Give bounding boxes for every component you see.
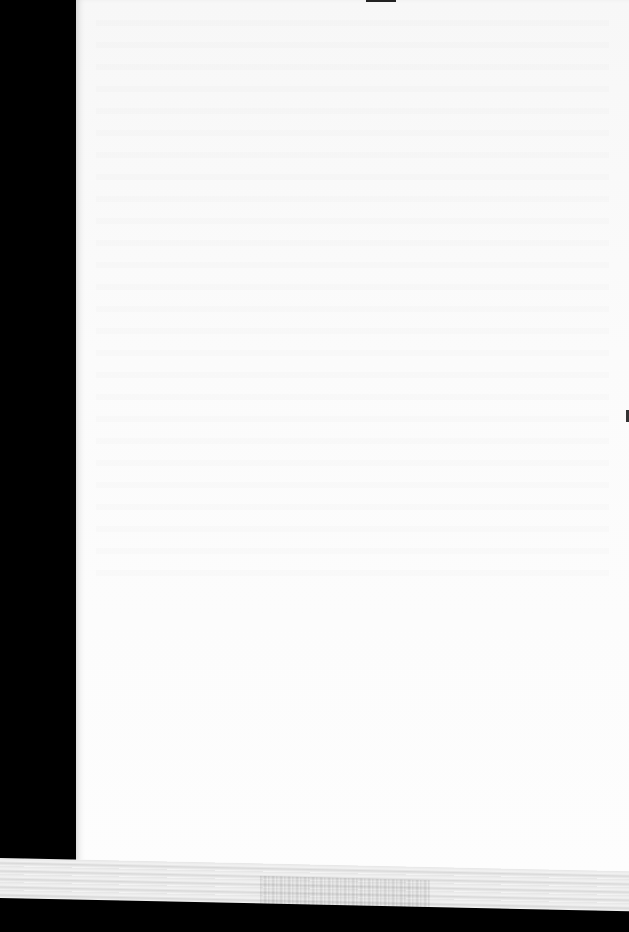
scan-artifact	[260, 876, 430, 910]
scan-left-margin	[0, 0, 78, 860]
bleed-through-texture	[96, 20, 609, 580]
page-edge-mark	[366, 0, 396, 2]
blank-page	[76, 0, 629, 885]
